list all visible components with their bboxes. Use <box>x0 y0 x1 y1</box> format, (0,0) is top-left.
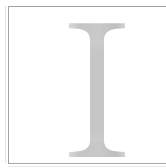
dropcap-letter-i-glyph <box>68 22 126 158</box>
page-outer-rule-bottom <box>8 166 166 167</box>
page-outer-rule-left <box>5 6 6 163</box>
dropcap-area <box>9 7 166 163</box>
scanned-page <box>0 0 166 168</box>
